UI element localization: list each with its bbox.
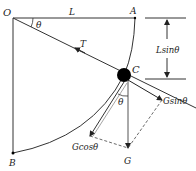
label-gsin: Gsinθ [163,96,187,106]
label-l: L [68,7,75,17]
g-cos-arrow [90,82,124,136]
label-a: A [129,6,137,16]
angle-arc-o [31,18,33,27]
dashed-gsin-to-g [128,100,162,148]
pendulum-force-diagram: O A B C L θ T Lsinθ θ Gsinθ Gcosθ G [0,0,196,171]
point-a [134,17,136,19]
label-theta-o: θ [36,20,42,30]
label-o: O [3,7,11,18]
label-gcos: Gcosθ [72,142,98,152]
ball-c [117,68,131,82]
label-theta-c: θ [118,97,124,107]
string-line [13,18,196,108]
point-b [12,152,15,155]
label-b: B [8,158,16,168]
label-lsin: Lsinθ [155,45,179,55]
label-c: C [132,64,140,75]
label-tension: T [80,39,87,49]
g-cos-arrow-shadow [93,83,127,136]
label-g: G [124,156,131,166]
arc-path [13,18,135,153]
